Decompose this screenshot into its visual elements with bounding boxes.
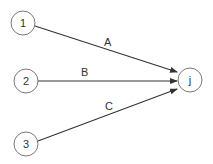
node-3-label: 3 bbox=[23, 138, 29, 150]
edge-c-line bbox=[38, 89, 177, 141]
node-1-label: 1 bbox=[20, 17, 26, 29]
edge-a-line bbox=[35, 26, 177, 72]
node-2-label: 2 bbox=[23, 75, 29, 87]
edge-b: B bbox=[38, 66, 177, 81]
node-3: 3 bbox=[14, 132, 38, 156]
node-j-label: j bbox=[188, 74, 191, 86]
edge-a: A bbox=[35, 26, 177, 72]
node-j: j bbox=[178, 68, 202, 92]
node-2: 2 bbox=[14, 69, 38, 93]
node-1: 1 bbox=[11, 11, 35, 35]
diagram-svg: A B C 1 2 3 j bbox=[0, 0, 213, 164]
diagram-canvas: A B C 1 2 3 j bbox=[0, 0, 213, 164]
edge-c: C bbox=[38, 89, 177, 141]
edge-a-label: A bbox=[104, 36, 112, 48]
edge-c-label: C bbox=[105, 100, 113, 112]
edge-b-label: B bbox=[81, 66, 88, 78]
